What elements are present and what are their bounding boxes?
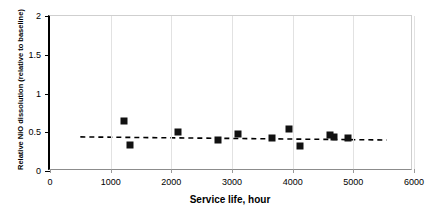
data-point-marker xyxy=(344,134,351,141)
data-point-marker xyxy=(175,129,182,136)
data-point-marker xyxy=(121,118,128,125)
x-axis-tick-label: 3000 xyxy=(222,176,242,188)
y-axis-tick-label: 1 xyxy=(36,88,41,101)
y-axis-tick: 1.5 xyxy=(45,55,50,56)
data-point-marker xyxy=(286,126,293,133)
x-axis-tick xyxy=(293,169,294,173)
gridline-vertical xyxy=(171,16,172,169)
y-axis-tick: 2 xyxy=(45,16,50,17)
x-axis-tick xyxy=(414,169,415,173)
x-axis-tick xyxy=(232,169,233,173)
y-axis-title: Relative NiO dissolution (relative to ba… xyxy=(14,15,28,170)
y-axis-tick-label: 0.5 xyxy=(28,126,41,139)
x-axis-title: Service life, hour xyxy=(48,193,412,206)
gridline-vertical xyxy=(232,16,233,169)
y-axis-tick: 0.5 xyxy=(45,132,50,133)
data-point-marker xyxy=(215,137,222,144)
plot-area: 010002000300040005000600000.511.52 xyxy=(48,15,412,170)
y-axis-tick-label: 1.5 xyxy=(28,49,41,62)
data-point-marker xyxy=(127,142,134,149)
x-axis-tick-label: 0 xyxy=(47,176,52,188)
x-axis-tick-label: 5000 xyxy=(343,176,363,188)
chart-container: 010002000300040005000600000.511.52 Servi… xyxy=(0,0,442,214)
x-axis-tick xyxy=(353,169,354,173)
gridline-vertical xyxy=(111,16,112,169)
data-point-marker xyxy=(269,134,276,141)
x-axis-tick-label: 4000 xyxy=(283,176,303,188)
y-axis-tick: 0 xyxy=(45,171,50,172)
y-axis-tick-label: 2 xyxy=(36,10,41,23)
x-axis-tick xyxy=(171,169,172,173)
data-point-marker xyxy=(235,130,242,137)
x-axis-tick xyxy=(111,169,112,173)
gridline-vertical xyxy=(353,16,354,169)
x-axis-tick xyxy=(50,169,51,173)
data-point-marker xyxy=(296,143,303,150)
x-axis-tick-label: 1000 xyxy=(101,176,121,188)
data-point-marker xyxy=(330,133,337,140)
gridline-vertical xyxy=(414,16,415,169)
y-axis-tick: 1 xyxy=(45,94,50,95)
x-axis-tick-label: 2000 xyxy=(161,176,181,188)
y-axis-tick-label: 0 xyxy=(36,165,41,178)
x-axis-tick-label: 6000 xyxy=(404,176,424,188)
gridline-vertical xyxy=(293,16,294,169)
